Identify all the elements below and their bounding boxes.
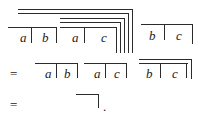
overline-row1-bar-over-bc bbox=[141, 24, 193, 25]
bracket-row2-tick-after-b1 bbox=[77, 63, 78, 78]
row2-var-c-2: c bbox=[172, 67, 178, 80]
bracket-row2-tick-after-b2 bbox=[160, 63, 161, 78]
row2-var-b-2: b bbox=[146, 67, 153, 80]
math-figure: abacbc=abacbc=. bbox=[0, 0, 201, 123]
overline-row3-empty-bar bbox=[76, 94, 99, 95]
bracket-row2-tick-after-a1 bbox=[56, 63, 57, 78]
row1-var-b-2: b bbox=[149, 29, 156, 42]
bracket-row1-tick-after-b bbox=[56, 27, 57, 43]
bracket-row1-outer-tick-1 bbox=[132, 9, 133, 53]
row2-var-c-1: c bbox=[114, 67, 120, 80]
row2-var-b-1: b bbox=[64, 67, 71, 80]
bracket-row1-outer-tick-2 bbox=[128, 13, 129, 53]
overline-row1-inner-bar-2 bbox=[60, 22, 120, 23]
row2-equals: = bbox=[10, 67, 17, 80]
overline-row1-outer-bar-1 bbox=[18, 9, 132, 10]
overline-row2-bar-over-bc bbox=[139, 63, 188, 64]
bracket-row2-tick-after-a2 bbox=[105, 63, 106, 78]
overline-row1-bar-over-ac bbox=[60, 27, 116, 28]
row3-equals: = bbox=[10, 98, 17, 111]
row1-var-a-2: a bbox=[72, 31, 79, 44]
row3-period: . bbox=[103, 100, 106, 113]
bracket-row1-tick-after-a2 bbox=[84, 27, 85, 43]
bracket-row2-tick-after-c2 bbox=[186, 63, 187, 78]
overline-row1-outer-bar-2 bbox=[18, 13, 128, 14]
overline-row1-inner-bar-1 bbox=[60, 18, 124, 19]
bracket-row1-inner-tick-1 bbox=[124, 18, 125, 53]
bracket-row1-tick-after-c bbox=[116, 27, 117, 53]
row2-var-a-2: a bbox=[94, 67, 101, 80]
row1-var-c-2: c bbox=[176, 29, 182, 42]
bracket-row1-tick-after-a1 bbox=[31, 27, 32, 43]
bracket-row1-tick-after-c2 bbox=[192, 24, 193, 44]
bracket-row1-inner-tick-2 bbox=[120, 22, 121, 53]
bracket-row2-outer-tick bbox=[191, 59, 192, 79]
row1-var-b-1: b bbox=[42, 31, 49, 44]
row1-var-c-1: c bbox=[101, 31, 107, 44]
row2-var-a-1: a bbox=[45, 67, 52, 80]
overline-row1-bar-over-ab bbox=[8, 27, 56, 28]
bracket-row2-tick-after-c1 bbox=[126, 63, 127, 78]
row1-var-a-1: a bbox=[20, 31, 27, 44]
bracket-row1-tick-after-b2 bbox=[164, 24, 165, 40]
overline-row2-outer-bar bbox=[139, 59, 192, 60]
bracket-row3-empty-tick bbox=[98, 94, 99, 108]
